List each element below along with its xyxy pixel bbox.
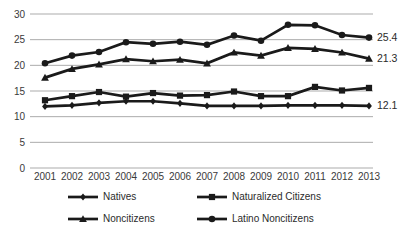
square-marker-icon — [42, 97, 48, 103]
noncitizens-line-marker-icon — [68, 213, 98, 225]
latino-noncitizens-line-marker-icon — [197, 213, 227, 225]
circle-marker-icon — [258, 37, 265, 44]
x-axis-tick-label: 2009 — [250, 171, 273, 182]
legend-item-naturalized-citizens: Naturalized Citizens — [197, 190, 321, 204]
legend-label-noncitizens: Noncitizens — [103, 212, 155, 226]
square-marker-icon — [96, 89, 102, 95]
y-axis-tick-label: 0 — [19, 163, 25, 174]
x-axis-tick-label: 2013 — [358, 171, 381, 182]
naturalized-citizens-line-marker-icon — [197, 191, 227, 203]
square-marker-icon — [312, 84, 318, 90]
circle-marker-icon — [366, 34, 373, 41]
circle-marker-icon — [209, 216, 216, 223]
circle-marker-icon — [312, 22, 319, 29]
diamond-marker-icon — [204, 102, 210, 109]
x-axis-tick-label: 2006 — [169, 171, 192, 182]
legend-label-natives: Natives — [103, 190, 136, 204]
square-marker-icon — [150, 90, 156, 96]
series-natives: 12.1 — [42, 98, 397, 112]
x-axis-tick-label: 2004 — [115, 171, 138, 182]
diamond-marker-icon — [339, 102, 345, 109]
circle-marker-icon — [123, 39, 130, 46]
circle-marker-icon — [150, 40, 157, 47]
series-latino-noncitizens: 25.4 — [42, 21, 398, 66]
series-end-label-natives: 12.1 — [377, 99, 398, 111]
legend-item-noncitizens: Noncitizens — [68, 212, 155, 226]
circle-marker-icon — [285, 21, 292, 28]
circle-marker-icon — [204, 42, 211, 49]
x-axis-tick-label: 2010 — [277, 171, 300, 182]
circle-marker-icon — [231, 32, 238, 39]
diamond-marker-icon — [285, 102, 291, 109]
legend-item-latino-noncitizens: Latino Noncitizens — [197, 212, 314, 226]
chart-plot-area: 0510152025302001200220032004200520062007… — [0, 0, 412, 186]
circle-marker-icon — [339, 32, 346, 39]
circle-marker-icon — [42, 60, 49, 67]
diamond-marker-icon — [96, 99, 102, 106]
y-axis-tick-label: 25 — [14, 34, 26, 45]
square-marker-icon — [204, 92, 210, 98]
natives-line-marker-icon — [68, 191, 98, 203]
x-axis-tick-label: 2005 — [142, 171, 165, 182]
diamond-marker-icon — [150, 98, 156, 105]
diamond-marker-icon — [258, 102, 264, 109]
series-naturalized-citizens — [42, 84, 372, 104]
y-axis-tick-label: 30 — [14, 9, 26, 20]
x-axis-tick-label: 2003 — [88, 171, 111, 182]
series-end-label-latino-noncitizens: 25.4 — [377, 31, 398, 43]
x-axis-tick-label: 2008 — [223, 171, 246, 182]
diamond-marker-icon — [177, 100, 183, 107]
y-axis-tick-label: 10 — [14, 111, 26, 122]
square-marker-icon — [285, 93, 291, 99]
y-axis-tick-label: 5 — [19, 137, 25, 148]
x-axis-tick-label: 2007 — [196, 171, 219, 182]
diamond-marker-icon — [69, 102, 75, 109]
x-axis-tick-label: 2002 — [61, 171, 84, 182]
circle-marker-icon — [96, 49, 103, 56]
circle-marker-icon — [69, 52, 76, 59]
legend-label-naturalized-citizens: Naturalized Citizens — [232, 190, 321, 204]
square-marker-icon — [177, 93, 183, 99]
series-noncitizens: 21.3 — [41, 44, 397, 81]
line-chart-figure: 0510152025302001200220032004200520062007… — [0, 0, 412, 236]
square-marker-icon — [231, 88, 237, 94]
chart-legend: Natives Naturalized Citizens Noncitizens… — [0, 186, 412, 236]
y-axis-tick-label: 20 — [14, 60, 26, 71]
diamond-marker-icon — [80, 193, 86, 200]
x-axis-tick-label: 2011 — [304, 171, 326, 182]
square-marker-icon — [366, 85, 372, 91]
circle-marker-icon — [177, 38, 184, 45]
series-end-label-noncitizens: 21.3 — [377, 52, 398, 64]
legend-item-natives: Natives — [68, 190, 136, 204]
square-marker-icon — [258, 93, 264, 99]
x-axis-tick-label: 2001 — [34, 171, 57, 182]
diamond-marker-icon — [366, 102, 372, 109]
y-axis-tick-label: 15 — [14, 86, 26, 97]
square-marker-icon — [209, 194, 215, 200]
diamond-marker-icon — [42, 103, 48, 110]
diamond-marker-icon — [312, 102, 318, 109]
diamond-marker-icon — [231, 102, 237, 109]
square-marker-icon — [69, 93, 75, 99]
square-marker-icon — [339, 87, 345, 93]
legend-label-latino-noncitizens: Latino Noncitizens — [232, 212, 314, 226]
square-marker-icon — [123, 94, 129, 100]
x-axis-tick-label: 2012 — [331, 171, 354, 182]
